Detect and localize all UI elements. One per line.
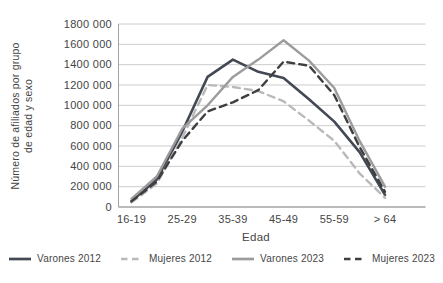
y-tick-label: 0 bbox=[36, 201, 112, 214]
y-tick-label: 1000 000 bbox=[36, 99, 112, 112]
legend-item-varones-2023: Varones 2023 bbox=[231, 253, 324, 264]
x-axis-title: Edad bbox=[118, 231, 394, 243]
legend-label: Varones 2012 bbox=[37, 253, 101, 264]
legend: Varones 2012Mujeres 2012Varones 2023Muje… bbox=[0, 253, 443, 264]
x-tick-label: 45-49 bbox=[260, 213, 308, 225]
y-tick-label: 1600 000 bbox=[36, 38, 112, 51]
x-tick-label: > 64 bbox=[361, 213, 409, 225]
legend-marker-dashed-line-icon bbox=[343, 255, 367, 263]
series-line-mujeres-2023 bbox=[132, 62, 386, 202]
x-tick-label: 16-19 bbox=[108, 213, 156, 225]
y-tick-label: 1200 000 bbox=[36, 79, 112, 92]
legend-marker-dashed-line-icon bbox=[120, 255, 144, 263]
legend-marker-solid-line-icon bbox=[231, 255, 255, 263]
y-tick-label: 600 000 bbox=[36, 140, 112, 153]
legend-marker-solid-line-icon bbox=[8, 255, 32, 263]
x-tick-label: 35-39 bbox=[209, 213, 257, 225]
legend-label: Mujeres 2023 bbox=[372, 253, 435, 264]
series-line-varones-2012 bbox=[132, 60, 386, 201]
legend-item-varones-2012: Varones 2012 bbox=[8, 253, 101, 264]
legend-label: Varones 2023 bbox=[260, 253, 324, 264]
series-line-mujeres-2012 bbox=[132, 85, 386, 202]
y-tick-label: 1800 000 bbox=[36, 18, 112, 31]
chart-container: Número de afiliados por grupo de edad y … bbox=[0, 0, 443, 283]
y-tick-label: 400 000 bbox=[36, 160, 112, 173]
y-tick-label: 1400 000 bbox=[36, 58, 112, 71]
y-tick-label: 200 000 bbox=[36, 180, 112, 193]
legend-item-mujeres-2023: Mujeres 2023 bbox=[343, 253, 435, 264]
legend-item-mujeres-2012: Mujeres 2012 bbox=[120, 253, 212, 264]
x-tick-label: 55-59 bbox=[310, 213, 358, 225]
y-tick-label: 800 000 bbox=[36, 119, 112, 132]
legend-label: Mujeres 2012 bbox=[149, 253, 212, 264]
x-tick-label: 25-29 bbox=[158, 213, 206, 225]
